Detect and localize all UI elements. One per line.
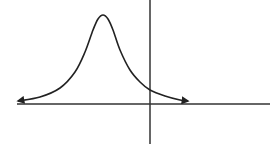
bell-curve [18, 15, 188, 101]
bell-curve-plot [0, 0, 276, 152]
